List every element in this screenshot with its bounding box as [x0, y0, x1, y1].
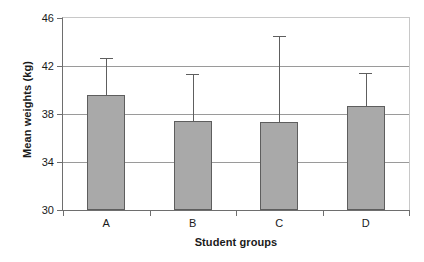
x-axis-tick-1: [150, 210, 151, 216]
y-axis-tick-label-46: 46: [42, 12, 54, 24]
bar-B: [174, 121, 212, 210]
error-bar-cap-D: [359, 73, 372, 74]
error-bar-stem-B: [193, 74, 194, 121]
x-axis-category-label-C: C: [275, 217, 283, 229]
scan-edge: [0, 256, 424, 262]
bar-C: [260, 122, 298, 210]
x-axis-tick-2: [236, 210, 237, 216]
x-axis-category-label-A: A: [103, 217, 110, 229]
y-axis-tick-46: [57, 18, 63, 19]
y-axis-tick-label-30: 30: [42, 204, 54, 216]
y-axis-title: Mean weights (kg): [18, 4, 36, 215]
bar-D: [347, 106, 385, 210]
x-axis-category-label-B: B: [189, 217, 196, 229]
y-axis-tick-38: [57, 114, 63, 115]
error-bar-stem-D: [366, 73, 367, 105]
y-axis-tick-label-42: 42: [42, 60, 54, 72]
plot-area: 3034384246ABCD: [62, 17, 410, 211]
error-bar-cap-B: [186, 74, 199, 75]
y-axis-tick-label-38: 38: [42, 108, 54, 120]
y-axis-tick-34: [57, 162, 63, 163]
error-bar-cap-A: [100, 58, 113, 59]
x-axis-title: Student groups: [62, 236, 410, 248]
y-axis-tick-label-34: 34: [42, 156, 54, 168]
x-axis-category-label-D: D: [362, 217, 370, 229]
x-axis-tick-4: [409, 210, 410, 216]
error-bar-stem-C: [279, 36, 280, 122]
x-axis-tick-0: [63, 210, 64, 216]
y-axis-tick-42: [57, 66, 63, 67]
error-bar-cap-C: [273, 36, 286, 37]
bar-chart: Mean weights (kg) 3034384246ABCD Student…: [0, 0, 424, 262]
gridline-y-42: [63, 66, 409, 67]
x-axis-tick-3: [323, 210, 324, 216]
bar-A: [87, 95, 125, 210]
error-bar-stem-A: [106, 58, 107, 95]
